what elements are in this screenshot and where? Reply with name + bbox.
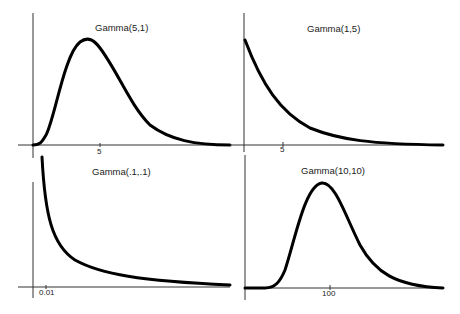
x-tick-label: 100	[322, 289, 336, 298]
panel-title: Gamma(5,1)	[95, 22, 148, 33]
density-curve	[33, 39, 230, 145]
gamma-density-grid: 5 Gamma(5,1) 5 Gamma(1,5) 0.01 Gamma(.1,…	[0, 0, 460, 314]
x-tick-label: 0.01	[39, 288, 55, 297]
panel-gamma-5-1: 5 Gamma(5,1)	[18, 13, 230, 158]
panel-title: Gamma(1,5)	[307, 23, 360, 34]
panel-title: Gamma(.1,.1)	[92, 166, 151, 177]
x-tick-label: 5	[280, 145, 285, 154]
density-curve	[245, 183, 443, 288]
density-curve	[245, 40, 443, 145]
x-tick-label: 5	[97, 147, 102, 156]
panel-gamma-1-5: 5 Gamma(1,5)	[230, 13, 443, 154]
panel-gamma-01-01: 0.01 Gamma(.1,.1)	[18, 157, 230, 298]
panel-gamma-10-10: 100 Gamma(10,10)	[245, 155, 443, 300]
panel-title: Gamma(10,10)	[301, 165, 365, 176]
